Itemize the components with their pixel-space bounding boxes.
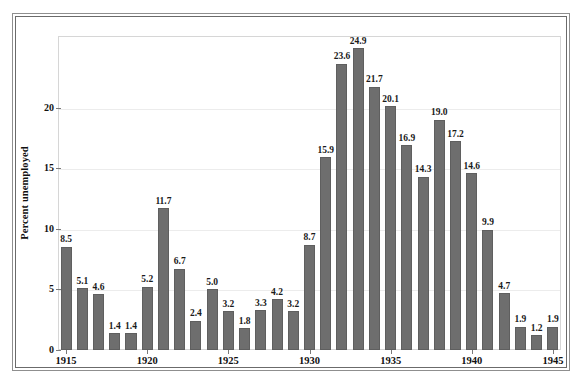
bar <box>125 333 136 350</box>
bar-value-label: 14.3 <box>415 165 432 175</box>
bar-value-label: 24.9 <box>350 37 367 47</box>
bar-group: 24.9 <box>350 36 366 350</box>
bar <box>401 145 412 350</box>
bar-value-label: 8.5 <box>60 235 72 245</box>
bar <box>272 299 283 350</box>
bar-group: 4.2 <box>269 36 285 350</box>
bar-value-label: 17.2 <box>447 130 464 140</box>
y-axis-ticks: 05101520 <box>34 36 54 350</box>
bar-value-label: 19.0 <box>431 108 448 118</box>
x-tick-mark-1925 <box>228 350 229 354</box>
bar-group: 19.0 <box>431 36 447 350</box>
bar <box>61 247 72 350</box>
bar-group: 16.9 <box>399 36 415 350</box>
bar-group: 4.7 <box>496 36 512 350</box>
bar-value-label: 14.6 <box>463 162 480 172</box>
bar-value-label: 9.9 <box>482 218 494 228</box>
bar <box>482 230 493 350</box>
bar <box>320 157 331 350</box>
x-tick-label-1930: 1930 <box>299 356 320 367</box>
bar <box>223 311 234 350</box>
x-tick-mark-1940 <box>472 350 473 354</box>
bar-group: 14.3 <box>415 36 431 350</box>
bar-value-label: 3.2 <box>222 300 234 310</box>
bar <box>93 294 104 350</box>
x-tick-label-1925: 1925 <box>218 356 239 367</box>
bar <box>109 333 120 350</box>
x-tick-mark-1930 <box>310 350 311 354</box>
bar-group: 1.4 <box>107 36 123 350</box>
bar-group: 5.0 <box>204 36 220 350</box>
bar <box>531 335 542 350</box>
x-tick-label-1915: 1915 <box>56 356 77 367</box>
bar-group: 1.8 <box>236 36 252 350</box>
bar-value-label: 21.7 <box>366 75 383 85</box>
bar-group: 4.6 <box>90 36 106 350</box>
bar-group: 2.4 <box>188 36 204 350</box>
y-tick-label-0: 0 <box>49 345 54 355</box>
bar-value-label: 1.2 <box>531 324 543 334</box>
bar <box>418 177 429 350</box>
bar-group: 3.2 <box>285 36 301 350</box>
bar <box>499 293 510 350</box>
bar <box>190 321 201 350</box>
bar <box>515 327 526 350</box>
bar <box>304 245 315 350</box>
y-tick-label-15: 15 <box>44 163 54 173</box>
bar-value-label: 1.4 <box>125 322 137 332</box>
y-axis-title-label: Percent unemployed <box>19 146 30 239</box>
bar <box>450 141 461 350</box>
bar-value-label: 3.3 <box>255 299 267 309</box>
bar <box>434 120 445 350</box>
bar-value-label: 1.9 <box>547 315 559 325</box>
y-tick-label-5: 5 <box>49 284 54 294</box>
bar-group: 9.9 <box>480 36 496 350</box>
y-axis-title: Percent unemployed <box>16 36 32 350</box>
bar <box>174 269 185 350</box>
bar <box>336 64 347 350</box>
figure: Percent unemployed 05101520 8.55.14.61.4… <box>0 0 585 386</box>
bar-value-label: 4.2 <box>271 288 283 298</box>
bar <box>239 328 250 350</box>
bar-value-label: 20.1 <box>382 95 399 105</box>
bar-group: 1.2 <box>529 36 545 350</box>
x-tick-mark-1935 <box>391 350 392 354</box>
bar-group: 1.9 <box>512 36 528 350</box>
bar-value-label: 1.9 <box>514 315 526 325</box>
bar-value-label: 16.9 <box>399 134 416 144</box>
y-tick-label-20: 20 <box>44 103 54 113</box>
bar <box>547 327 558 350</box>
bar-group: 5.2 <box>139 36 155 350</box>
bar-group: 5.1 <box>74 36 90 350</box>
bar-value-label: 23.6 <box>334 52 351 62</box>
x-tick-mark-1915 <box>66 350 67 354</box>
bar-group: 1.4 <box>123 36 139 350</box>
bar-value-label: 6.7 <box>174 257 186 267</box>
bar-group: 6.7 <box>172 36 188 350</box>
bar-series: 8.55.14.61.41.45.211.76.72.45.03.21.83.3… <box>58 36 561 350</box>
bar-value-label: 2.4 <box>190 309 202 319</box>
bar-value-label: 1.8 <box>239 317 251 327</box>
bar <box>158 208 169 350</box>
bar-value-label: 1.4 <box>109 322 121 332</box>
bar <box>466 173 477 350</box>
bar-value-label: 5.1 <box>76 277 88 287</box>
bar-group: 8.7 <box>301 36 317 350</box>
bar-group: 23.6 <box>334 36 350 350</box>
bar-group: 8.5 <box>58 36 74 350</box>
bar-value-label: 8.7 <box>304 233 316 243</box>
bar <box>77 288 88 350</box>
bar-value-label: 3.2 <box>287 300 299 310</box>
bar-group: 11.7 <box>155 36 171 350</box>
bar <box>142 287 153 350</box>
bar-value-label: 4.6 <box>93 283 105 293</box>
bar <box>255 310 266 350</box>
bar <box>385 106 396 350</box>
x-tick-label-1945: 1945 <box>542 356 563 367</box>
x-tick-label-1940: 1940 <box>461 356 482 367</box>
y-tick-label-10: 10 <box>44 224 54 234</box>
x-axis-ticks: 1915192019251930193519401945 <box>58 350 561 374</box>
bar-value-label: 11.7 <box>155 197 171 207</box>
bar-group: 15.9 <box>318 36 334 350</box>
bar <box>288 311 299 350</box>
